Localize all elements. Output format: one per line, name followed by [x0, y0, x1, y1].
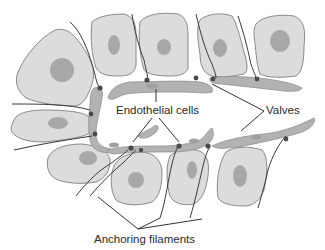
- nucleus: [108, 35, 120, 55]
- junction-dot: [93, 132, 98, 137]
- anchoring-filaments-label: Anchoring filaments: [94, 233, 195, 245]
- junction-dot: [211, 77, 216, 82]
- junction-dot: [128, 145, 133, 150]
- endothelial-cells-label: Endothelial cells: [116, 104, 199, 116]
- endothelial-nucleus: [251, 135, 261, 140]
- endothelial-cell: [108, 81, 213, 99]
- junction-dot: [205, 143, 210, 148]
- valves-label: Valves: [266, 104, 300, 116]
- endothelial-cell: [212, 118, 315, 148]
- lymphatic-capillary-diagram: Endothelial cells Valves Anchoring filam…: [0, 0, 325, 250]
- junction-dot: [284, 137, 289, 142]
- endothelial-nucleus: [146, 84, 158, 89]
- nucleus: [187, 161, 197, 179]
- nucleus: [128, 172, 144, 188]
- junction-dot: [97, 85, 102, 90]
- valves-leader: [241, 111, 264, 131]
- endothelial-nucleus: [189, 139, 199, 144]
- nucleus: [48, 117, 68, 129]
- nucleus: [270, 30, 290, 52]
- junction-dot: [194, 76, 199, 81]
- junction-dot: [144, 77, 149, 82]
- junction-dot: [255, 77, 260, 82]
- nucleus: [79, 151, 97, 165]
- nucleus: [157, 39, 171, 55]
- diagram-canvas: [0, 0, 325, 250]
- junction-dot: [139, 148, 143, 152]
- endothelial-leader: [159, 118, 179, 142]
- nucleus: [233, 165, 247, 187]
- nucleus: [50, 58, 74, 82]
- junction-dot: [176, 143, 181, 148]
- endothelial-nucleus: [109, 143, 119, 148]
- junction-dot: [89, 112, 94, 117]
- nucleus: [213, 39, 227, 57]
